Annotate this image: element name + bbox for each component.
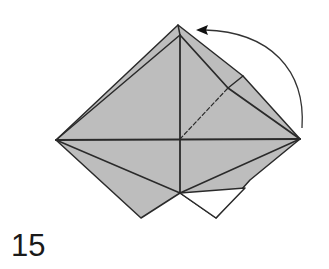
paper-body: [56, 25, 300, 218]
white-flap: [180, 188, 245, 218]
step-number: 15: [11, 230, 45, 261]
paper-model: [56, 25, 300, 218]
horizontal-crease: [56, 139, 300, 140]
origami-diagram: [0, 0, 329, 269]
